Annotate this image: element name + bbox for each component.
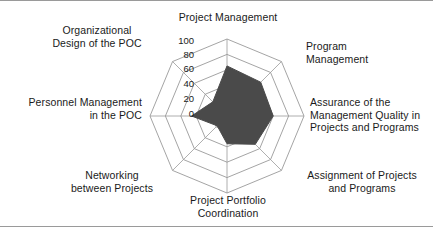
radar-data-polygon	[192, 66, 274, 144]
axis-label-program-management: Program Management	[306, 40, 398, 65]
radar-chart-figure: 100 80 60 40 20 0 Project Management Pro…	[0, 0, 433, 227]
tick-label-0: 0	[166, 109, 194, 119]
tick-label-100: 100	[166, 36, 194, 46]
axis-label-project-portfolio-coordination: Project Portfolio Coordination	[168, 194, 288, 219]
axis-label-assignment-projects-programs: Assignment of Projects and Programs	[296, 169, 428, 194]
tick-label-40: 40	[166, 79, 194, 89]
axis-label-assurance-management-quality: Assurance of the Management Quality in P…	[310, 96, 428, 134]
axis-label-networking-between-projects: Networking between Projects	[52, 169, 172, 194]
axis-label-personnel-management: Personnel Management in the POC	[18, 96, 142, 121]
tick-label-20: 20	[166, 94, 194, 104]
axis-label-organizational-design-poc: Organizational Design of the POC	[32, 24, 162, 49]
tick-label-60: 60	[166, 64, 194, 74]
tick-label-80: 80	[166, 50, 194, 60]
axis-label-project-management: Project Management	[158, 11, 298, 24]
